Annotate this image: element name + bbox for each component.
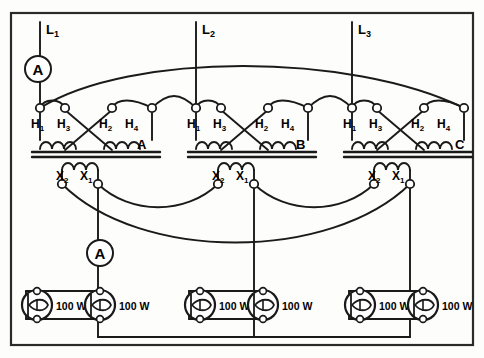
terminal-a-x1 — [94, 180, 102, 188]
terminal-b-x1 — [250, 180, 258, 188]
label-a-h2-sub: 2 — [108, 124, 113, 133]
lamp-c1-node-bottom — [357, 316, 364, 323]
label-a-x2-sub: 2 — [64, 176, 69, 185]
label-a-x1-text: X — [80, 169, 88, 183]
lamp-b1-node-bottom — [197, 316, 204, 323]
label-c-x1-sub: 1 — [400, 176, 405, 185]
lamp-a2-rating: 100 W — [119, 300, 149, 312]
label-c-h4-text: H — [437, 117, 446, 131]
label-b-h2-text: H — [255, 117, 264, 131]
label-a-x1-sub: 1 — [88, 176, 93, 185]
diagram-canvas: A A 100 W 100 W — [0, 0, 484, 358]
wiring-diagram-svg: A A 100 W 100 W — [0, 0, 484, 358]
lamp-a1-node-bottom — [34, 316, 41, 323]
terminal-a-h1 — [36, 104, 44, 112]
label-c-h1-text: H — [343, 117, 352, 131]
label-b-x2-sub: 2 — [220, 176, 225, 185]
lamp-a2-node-top — [97, 288, 104, 295]
terminal-c-h1 — [348, 104, 356, 112]
ammeter-line-l1-label: A — [33, 61, 44, 78]
label-line-l2-sub: 2 — [210, 29, 215, 39]
lamp-b1-node-top — [197, 288, 204, 295]
label-c-h2-text: H — [411, 117, 420, 131]
label-c-x2-text: X — [368, 169, 376, 183]
label-transformer-b: B — [296, 137, 305, 152]
label-c-h3-text: H — [369, 117, 378, 131]
lamp-c1-rating: 100 W — [379, 300, 409, 312]
terminal-c-x1 — [406, 180, 414, 188]
lamp-c1-node-top — [357, 288, 364, 295]
terminal-c-h2 — [420, 104, 428, 112]
label-line-l1-sub: 1 — [54, 29, 59, 39]
lamp-a1-node-top — [34, 288, 41, 295]
label-a-h3-sub: 3 — [66, 124, 71, 133]
lamp-b2-node-bottom — [260, 316, 267, 323]
label-transformer-a: A — [137, 137, 147, 152]
terminal-b-h1 — [192, 104, 200, 112]
ammeter-secondary-a: A — [87, 240, 113, 266]
label-c-h2-sub: 2 — [420, 124, 425, 133]
label-a-h1-sub: 1 — [40, 124, 45, 133]
label-b-h2-sub: 2 — [264, 124, 269, 133]
terminal-c-h4 — [460, 104, 468, 112]
label-a-h4-text: H — [125, 117, 134, 131]
label-a-h4-sub: 4 — [134, 124, 139, 133]
terminal-a-h2 — [108, 104, 116, 112]
label-a-h1-text: H — [31, 117, 40, 131]
label-a-h2-text: H — [99, 117, 108, 131]
lamp-c2-node-bottom — [420, 316, 427, 323]
label-c-h4-sub: 4 — [446, 124, 451, 133]
label-b-x1-text: X — [236, 169, 244, 183]
label-c-h3-sub: 3 — [378, 124, 383, 133]
lamp-a2-node-bottom — [97, 316, 104, 323]
label-a-h3-text: H — [57, 117, 66, 131]
label-a-x2-text: X — [56, 169, 64, 183]
label-line-l1-text: L — [46, 22, 54, 37]
lamp-b2-node-top — [260, 288, 267, 295]
label-b-h1-text: H — [187, 117, 196, 131]
label-line-l3-sub: 3 — [366, 29, 371, 39]
lamp-c2-rating: 100 W — [442, 300, 472, 312]
terminal-a-h3 — [61, 104, 69, 112]
label-b-h3-sub: 3 — [222, 124, 227, 133]
label-c-x1-text: X — [392, 169, 400, 183]
terminal-c-h3 — [373, 104, 381, 112]
lamp-a1-rating: 100 W — [56, 300, 86, 312]
terminal-b-h4 — [304, 104, 312, 112]
label-b-h4-text: H — [281, 117, 290, 131]
lamp-c2-node-top — [420, 288, 427, 295]
label-c-x2-sub: 2 — [376, 176, 381, 185]
lamp-b1-rating: 100 W — [219, 300, 249, 312]
ammeter-secondary-a-label: A — [95, 245, 106, 262]
ammeter-line-l1: A — [25, 56, 51, 82]
label-b-h1-sub: 1 — [196, 124, 201, 133]
label-c-h1-sub: 1 — [352, 124, 357, 133]
label-b-x2-text: X — [212, 169, 220, 183]
label-line-l3-text: L — [358, 22, 366, 37]
label-line-l2-text: L — [202, 22, 210, 37]
label-b-h3-text: H — [213, 117, 222, 131]
label-b-h4-sub: 4 — [290, 124, 295, 133]
label-transformer-c: C — [455, 137, 465, 152]
lamp-b2-rating: 100 W — [282, 300, 312, 312]
terminal-a-h4 — [148, 104, 156, 112]
terminal-b-h3 — [217, 104, 225, 112]
label-b-x1-sub: 1 — [244, 176, 249, 185]
terminal-b-h2 — [264, 104, 272, 112]
